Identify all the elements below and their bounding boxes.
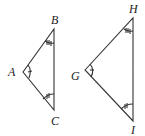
diagram-canvas: A B C G H I (0, 0, 145, 136)
triangles-figure (0, 0, 145, 136)
vertex-label-i: I (131, 124, 135, 136)
vertex-label-h: H (129, 3, 138, 15)
vertex-label-g: G (71, 70, 80, 82)
vertex-label-c: C (51, 115, 59, 127)
vertex-label-b: B (51, 14, 58, 26)
vertex-label-a: A (8, 66, 15, 78)
